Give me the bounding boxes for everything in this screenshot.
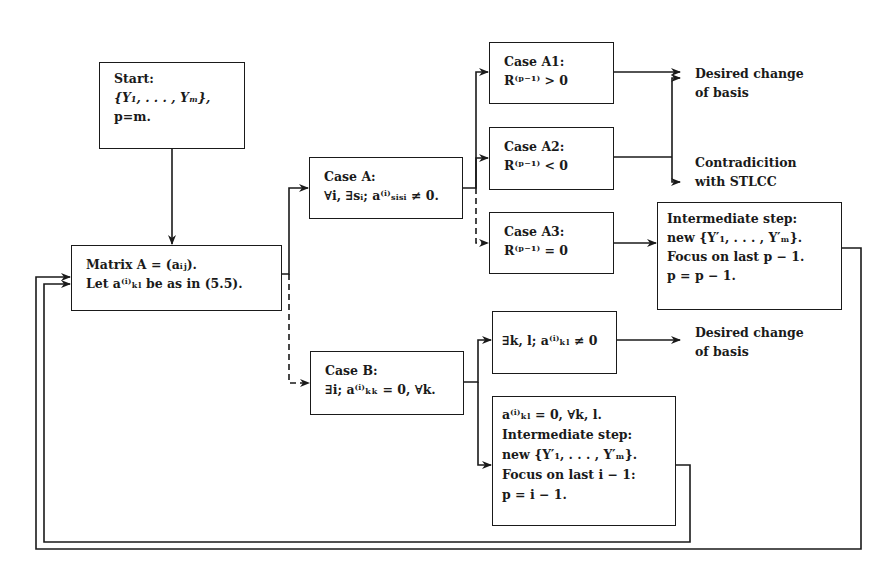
outcome-desired-a-line2: of basis: [695, 83, 804, 102]
outcome-desired-b-line2: of basis: [695, 342, 804, 361]
edge-case-b-b2: [478, 382, 491, 465]
case-a3-condition: R⁽ᵖ⁻¹⁾ = 0: [504, 241, 605, 260]
outcome-desired-change-b: Desired change of basis: [695, 323, 804, 361]
start-set: {Y₁, . . . , Yₘ},: [114, 88, 236, 107]
case-b2-new: new {Y′₁, . . . , Y′ₘ}.: [502, 445, 667, 465]
case-b2-node: a⁽ⁱ⁾ₖₗ = 0, ∀k, l. Intermediate step: ne…: [492, 396, 676, 526]
edge-matrix-case-a: [281, 188, 308, 274]
case-b2-title: Intermediate step:: [502, 425, 667, 445]
case-b1-node: ∃k, l; a⁽ⁱ⁾ₖₗ ≠ 0: [492, 311, 617, 374]
outcome-contradiction: Contradicition with STLCC: [695, 153, 797, 191]
edge-case-a-a2: [476, 158, 488, 188]
case-a-node: Case A: ∀i, ∃sᵢ; a⁽ⁱ⁾ₛᵢₛᵢ ≠ 0.: [309, 157, 463, 219]
edge-matrix-case-b: [289, 274, 309, 383]
intermediate-a-new: new {Y′₁, . . . , Y′ₘ}.: [667, 228, 833, 247]
edge-case-b-b1: [463, 340, 491, 382]
edge-case-a-a1: [462, 72, 488, 188]
case-a2-title: Case A2:: [504, 137, 605, 156]
case-b-title: Case B:: [325, 361, 455, 380]
case-a3-node: Case A3: R⁽ᵖ⁻¹⁾ = 0: [489, 212, 614, 274]
outcome-desired-a-line1: Desired change: [695, 64, 804, 83]
outcome-desired-change-a: Desired change of basis: [695, 64, 804, 102]
case-a1-title: Case A1:: [504, 52, 605, 71]
case-b2-focus: Focus on last i − 1:: [502, 465, 667, 485]
start-p: p=m.: [114, 107, 236, 126]
intermediate-a-focus: Focus on last p − 1.: [667, 247, 833, 266]
matrix-node: Matrix A = (aᵢⱼ). Let a⁽ⁱ⁾ₖₗ be as in (5…: [71, 245, 282, 311]
outcome-contradiction-line1: Contradicition: [695, 153, 797, 172]
case-a1-condition: R⁽ᵖ⁻¹⁾ > 0: [504, 71, 605, 90]
matrix-let: Let a⁽ⁱ⁾ₖₗ be as in (5.5).: [86, 274, 273, 293]
edge-junction-desired: [672, 78, 680, 157]
matrix-def: Matrix A = (aᵢⱼ).: [86, 255, 273, 274]
intermediate-a-p: p = p − 1.: [667, 266, 833, 285]
intermediate-a-node: Intermediate step: new {Y′₁, . . . , Y′ₘ…: [657, 202, 842, 310]
case-b1-condition: ∃k, l; a⁽ⁱ⁾ₖₗ ≠ 0: [502, 331, 608, 350]
intermediate-a-title: Intermediate step:: [667, 209, 833, 228]
case-b-condition: ∃i; a⁽ⁱ⁾ₖₖ = 0, ∀k.: [325, 380, 455, 399]
case-b-node: Case B: ∃i; a⁽ⁱ⁾ₖₖ = 0, ∀k.: [310, 351, 464, 415]
case-b2-condition: a⁽ⁱ⁾ₖₗ = 0, ∀k, l.: [502, 405, 667, 425]
case-a3-title: Case A3:: [504, 222, 605, 241]
case-a-title: Case A:: [324, 167, 454, 186]
case-a-condition: ∀i, ∃sᵢ; a⁽ⁱ⁾ₛᵢₛᵢ ≠ 0.: [324, 186, 454, 205]
case-b2-p: p = i − 1.: [502, 485, 667, 505]
case-a2-condition: R⁽ᵖ⁻¹⁾ < 0: [504, 156, 605, 175]
outcome-desired-b-line1: Desired change: [695, 323, 804, 342]
case-a1-node: Case A1: R⁽ᵖ⁻¹⁾ > 0: [489, 42, 614, 104]
case-a2-node: Case A2: R⁽ᵖ⁻¹⁾ < 0: [489, 127, 614, 190]
start-node: Start: {Y₁, . . . , Yₘ}, p=m.: [99, 62, 245, 149]
edge-junction-contradiction: [672, 157, 680, 182]
start-title: Start:: [114, 69, 236, 88]
edge-case-a-a3: [476, 188, 488, 243]
outcome-contradiction-line2: with STLCC: [695, 172, 797, 191]
